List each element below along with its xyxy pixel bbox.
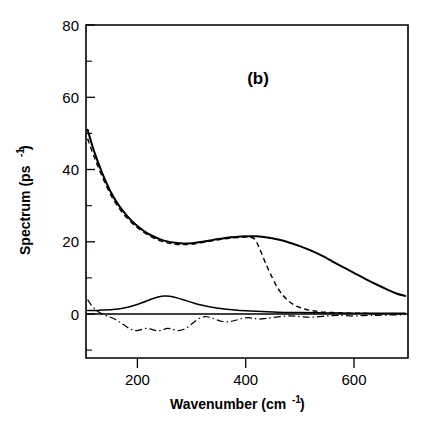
chart-background (0, 0, 429, 429)
ytick-label-60: 60 (62, 89, 79, 106)
ytick-label-80: 80 (62, 17, 79, 34)
xtick-label-600: 600 (341, 371, 366, 388)
ytick-label-0: 0 (71, 306, 79, 323)
xtick-label-400: 400 (233, 371, 258, 388)
ytick-label-20: 20 (62, 233, 79, 250)
y-axis-title-text: Spectrum (ps (17, 165, 33, 255)
xtick-label-200: 200 (125, 371, 150, 388)
spectrum-chart: 80 60 40 20 0 200 400 600 Wavenumber (cm… (0, 0, 429, 429)
ytick-label-40: 40 (62, 161, 79, 178)
x-axis-title-text: Wavenumber (cm (170, 396, 286, 412)
figure-root: 80 60 40 20 0 200 400 600 Wavenumber (cm… (0, 0, 429, 429)
panel-label: (b) (247, 69, 269, 88)
x-axis-title: Wavenumber (cm -1 ) (170, 394, 305, 412)
x-axis-title-tail: ) (300, 396, 305, 412)
y-axis-title-tail: ) (17, 145, 33, 150)
